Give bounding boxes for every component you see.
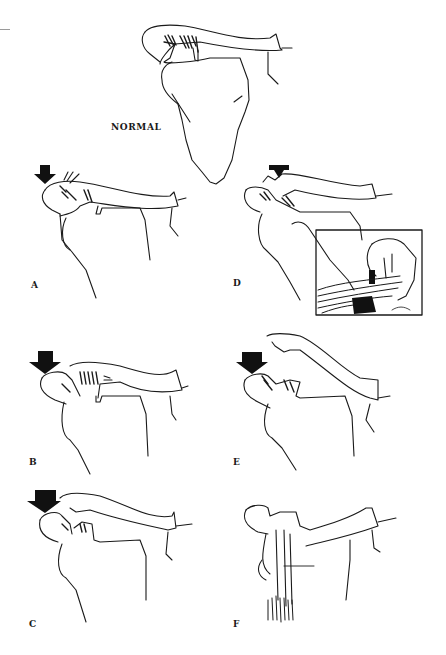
label-normal: NORMAL	[111, 122, 161, 132]
label-f: F	[233, 619, 240, 629]
label-a: A	[30, 280, 39, 290]
label-e: E	[233, 457, 240, 467]
label-d: D	[233, 278, 241, 288]
panel-f-drawing	[245, 505, 397, 622]
panel-c-drawing	[27, 490, 192, 622]
label-c: C	[29, 619, 36, 629]
panel-normal-drawing	[142, 25, 292, 184]
ac-joint-injury-illustration: NORMAL A	[0, 0, 446, 655]
arrow-down-icon	[34, 165, 56, 184]
panel-b-drawing	[29, 351, 188, 474]
label-b: B	[29, 457, 37, 467]
panel-e-drawing	[236, 334, 390, 470]
arrow-down-icon	[29, 351, 61, 374]
panel-a-drawing	[34, 165, 186, 298]
panel-d-drawing	[245, 165, 422, 315]
arrow-down-icon	[27, 490, 61, 513]
arrow-down-icon	[236, 352, 268, 374]
